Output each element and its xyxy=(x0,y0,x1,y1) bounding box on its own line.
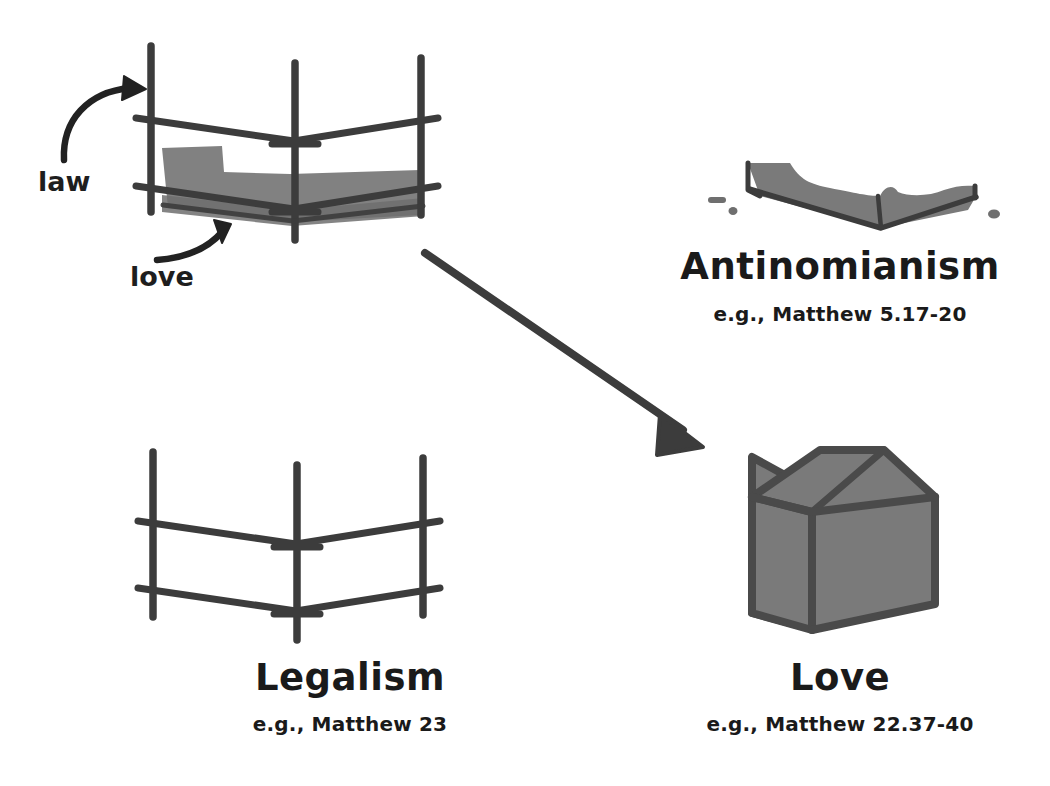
panel-title-legalism: Legalism xyxy=(0,659,700,696)
panel-antinomianism-icon xyxy=(708,163,1000,228)
scaffold-upper-rail xyxy=(136,118,438,144)
diagram-canvas: law love Antinomianism e.g., Matthew 5.1… xyxy=(0,0,1050,786)
panel-caption-antinomianism: e.g., Matthew 5.17-20 xyxy=(0,304,1050,324)
panel-caption-legalism: e.g., Matthew 23 xyxy=(0,714,700,734)
panel-love-icon xyxy=(752,450,935,630)
panel-law-love-scaffold xyxy=(136,46,438,240)
law-annotation-label: law xyxy=(38,168,90,195)
panel-title-love: Love xyxy=(630,659,1050,696)
splash-dot-left xyxy=(729,207,738,215)
splash-dot-right xyxy=(988,210,1000,219)
panel-legalism-icon xyxy=(138,452,440,640)
panel-caption-love: e.g., Matthew 22.37-40 xyxy=(630,714,1050,734)
panel-title-antinomianism: Antinomianism xyxy=(0,248,1050,285)
splash-dash-left xyxy=(708,197,726,203)
